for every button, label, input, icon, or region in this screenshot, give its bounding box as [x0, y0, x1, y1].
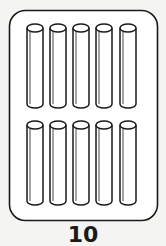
cylinder-icon — [73, 24, 89, 108]
cylinder-icon — [120, 121, 136, 205]
card-number-label: 10 — [0, 222, 166, 246]
cylinder-icon — [50, 121, 66, 205]
cylinder-icon — [96, 121, 112, 205]
cylinder-icon — [73, 121, 89, 205]
card-illustration — [0, 0, 166, 246]
cylinder-icon — [96, 24, 112, 108]
cylinder-icon — [27, 121, 43, 205]
cylinder-icon — [27, 24, 43, 108]
cylinder-icon — [50, 24, 66, 108]
cylinder-icon — [120, 24, 136, 108]
